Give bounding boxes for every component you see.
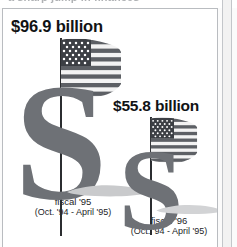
chart-frame: $96.9 billion (2, 8, 218, 247)
value-label-fiscal-96: $55.8 billion (113, 97, 218, 115)
pictogram-fiscal-96: S (113, 115, 218, 215)
dollar-sign-glyph: S (113, 151, 189, 243)
value-label-fiscal-95: $96.9 billion (11, 17, 135, 36)
clipped-headline-text: a sharp jump in finances (8, 0, 139, 3)
page-gutter (223, 0, 231, 247)
svg-text:S: S (118, 151, 183, 243)
column-rule-left (222, 0, 223, 247)
chart-group-fiscal-96: $55.8 billion (113, 97, 218, 237)
cast-shadow (153, 199, 218, 217)
clipped-headline-strip: a sharp jump in finances (0, 0, 237, 8)
column-rule-right (231, 0, 232, 247)
